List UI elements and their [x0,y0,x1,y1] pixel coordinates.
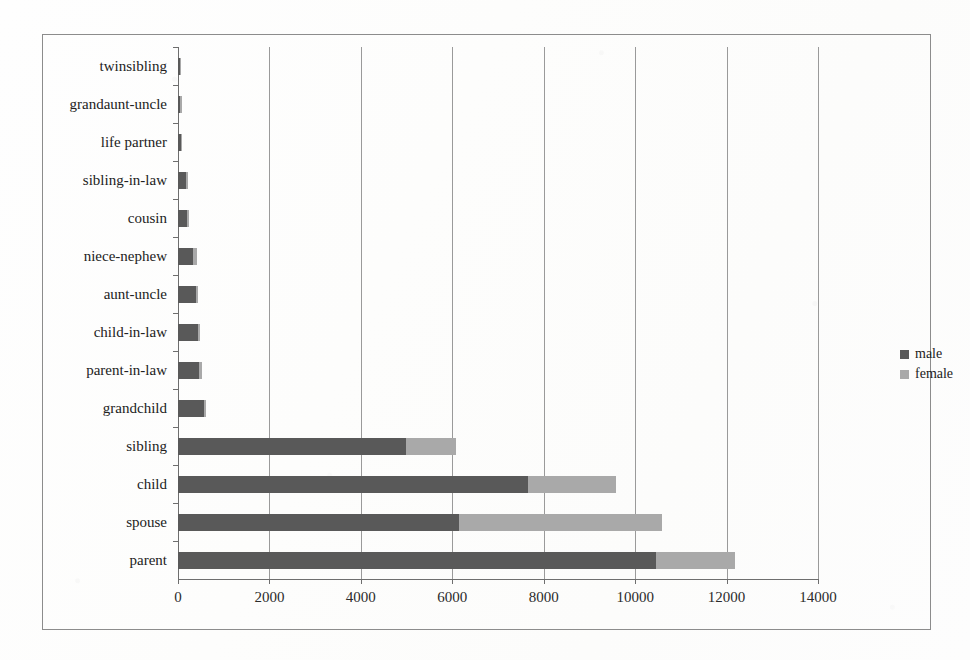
x-tick-label: 0 [174,589,182,606]
gridline [544,47,545,579]
bar-segment-female [186,172,188,189]
bar-segment-male [178,362,199,379]
x-axis-line [178,579,819,580]
bar-segment-female [187,210,189,227]
x-tick-label: 2000 [254,589,284,606]
legend-swatch-icon [900,370,909,379]
legend-label: male [915,347,942,361]
y-tick-mark [173,161,178,162]
bar-segment-male [178,248,193,265]
bar-segment-male [178,514,459,531]
bar-segment-male [178,210,187,227]
bar-segment-female [198,324,201,341]
y-tick-mark [173,465,178,466]
x-tick-label: 8000 [529,589,559,606]
bar-row [43,58,818,75]
y-tick-mark [173,47,178,48]
x-tick-label: 4000 [346,589,376,606]
plot-area [178,47,818,579]
bar-row [43,134,818,151]
y-tick-mark [173,541,178,542]
y-tick-mark [173,199,178,200]
bar-segment-male [178,324,198,341]
bar-row [43,324,818,341]
y-tick-mark [173,503,178,504]
legend-swatch-icon [900,350,909,359]
bar-segment-male [178,552,656,569]
y-tick-mark [173,313,178,314]
bar-segment-male [178,438,406,455]
bar-segment-female [406,438,456,455]
chart-legend: malefemale [900,347,953,387]
bar-row [43,286,818,303]
y-tick-mark [173,275,178,276]
gridline [178,47,179,579]
gridline [452,47,453,579]
bar-segment-female [193,248,196,265]
x-tick-label: 6000 [437,589,467,606]
x-tick-label: 14000 [799,589,837,606]
bar-row [43,552,818,569]
bar-segment-male [178,172,186,189]
bar-segment-female [204,400,206,417]
bar-segment-female [199,362,201,379]
bar-row [43,476,818,493]
bar-row [43,362,818,379]
x-tick-mark [635,579,636,584]
bar-row [43,210,818,227]
legend-item: male [900,347,953,361]
gridline [269,47,270,579]
bar-segment-female [181,134,183,151]
y-tick-mark [173,237,178,238]
y-tick-mark [173,351,178,352]
bar-segment-female [459,514,662,531]
legend-item: female [900,367,953,381]
bar-segment-male [178,476,528,493]
bar-segment-female [656,552,735,569]
x-tick-mark [178,579,179,584]
bar-segment-female [196,286,199,303]
x-tick-mark [452,579,453,584]
gridline [635,47,636,579]
bar-row [43,438,818,455]
bar-segment-male [178,400,204,417]
gridline [727,47,728,579]
bar-row [43,514,818,531]
y-tick-mark [173,427,178,428]
bar-segment-female [180,96,182,113]
bar-segment-male [178,286,196,303]
gridline [818,47,819,579]
bar-row [43,400,818,417]
x-tick-label: 10000 [616,589,654,606]
y-tick-mark [173,389,178,390]
bar-segment-female [528,476,616,493]
x-tick-mark [361,579,362,584]
chart-frame: 02000400060008000100001200014000 twinsib… [42,34,931,630]
bar-row [43,248,818,265]
bar-row [43,96,818,113]
y-tick-mark [173,85,178,86]
x-tick-mark [544,579,545,584]
x-tick-label: 12000 [708,589,746,606]
x-tick-mark [269,579,270,584]
gridline [361,47,362,579]
bar-row [43,172,818,189]
y-tick-mark [173,123,178,124]
legend-label: female [915,367,953,381]
bar-segment-female [180,58,182,75]
x-tick-mark [727,579,728,584]
x-tick-mark [818,579,819,584]
